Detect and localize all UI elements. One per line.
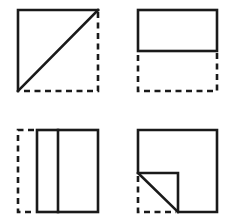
panel-a-dashed-outline	[20, 12, 98, 91]
panel-d-fold-line	[138, 173, 178, 212]
panel-b-dashed-outline	[138, 53, 217, 91]
panel-c-dashed-outline	[18, 130, 34, 212]
panel-b-half-fold	[138, 10, 217, 91]
panel-c-folded-rect	[37, 130, 98, 212]
panel-d-corner-fold	[138, 130, 217, 212]
paper-folding-diagram	[0, 0, 239, 222]
panel-c-strip-fold	[18, 130, 98, 212]
panel-d-dashed-corner	[138, 176, 176, 212]
panel-a-diagonal-fold	[18, 10, 98, 91]
panel-d-folded-outline	[138, 130, 217, 212]
panel-b-folded-rect	[138, 10, 217, 51]
panel-a-fold-line	[18, 10, 98, 91]
